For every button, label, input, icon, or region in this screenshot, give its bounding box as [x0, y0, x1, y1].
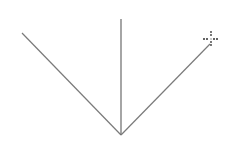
drawing-canvas[interactable] — [0, 0, 236, 147]
right-diagonal-line — [121, 44, 210, 135]
crosshair-icon — [203, 31, 219, 47]
left-diagonal-line — [22, 33, 121, 135]
